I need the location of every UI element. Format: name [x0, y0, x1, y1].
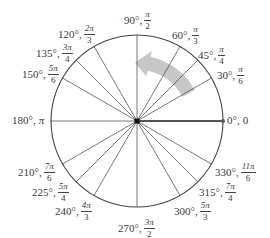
- angle-label-240: 240°,4π3: [55, 201, 92, 222]
- radian-fraction: π4: [218, 45, 225, 66]
- degree-text: 225°,: [32, 187, 56, 198]
- spoke-300: [137, 121, 180, 195]
- radian-fraction: 4π3: [81, 201, 92, 222]
- angle-label-210: 210°,7π6: [18, 162, 55, 183]
- radian-fraction: 3π2: [144, 218, 155, 238]
- radian-fraction: 7π6: [44, 162, 55, 183]
- angle-label-90: 90°,π2: [124, 10, 151, 31]
- angle-label-300: 300°,5π3: [174, 201, 211, 222]
- radian-fraction: 5π4: [58, 182, 69, 203]
- radian-fraction: 5π3: [200, 201, 211, 222]
- spoke-120: [94, 47, 137, 121]
- angle-label-225: 225°,5π4: [32, 182, 69, 203]
- degree-text: 210°,: [18, 167, 42, 178]
- radian-fraction: 3π4: [62, 43, 73, 64]
- degree-text: 315°,: [199, 187, 223, 198]
- degree-text: 60°,: [172, 30, 190, 41]
- spoke-135: [76, 60, 137, 121]
- spoke-210: [63, 121, 137, 164]
- degree-text: 180°,: [12, 115, 36, 126]
- angle-label-0: 0°,0: [227, 115, 248, 126]
- degree-text: 330°,: [215, 167, 239, 178]
- origin-point: [135, 119, 140, 124]
- angle-label-270: 270°,3π2: [118, 218, 155, 238]
- radian-fraction: π2: [144, 10, 151, 31]
- angle-label-180: 180°,π: [12, 115, 44, 126]
- angle-label-150: 150°,5π6: [22, 64, 59, 85]
- degree-text: 150°,: [22, 69, 46, 80]
- radian-fraction: π6: [237, 65, 244, 86]
- rotation-arrow-icon: [135, 51, 195, 97]
- radian-fraction: 5π6: [48, 64, 59, 85]
- angle-label-315: 315°,7π4: [199, 182, 236, 203]
- radian-fraction: 11π6: [241, 162, 256, 183]
- angle-label-60: 60°,π3: [172, 25, 199, 46]
- degree-text: 30°,: [217, 70, 235, 81]
- degree-text: 45°,: [198, 50, 216, 61]
- spoke-330: [137, 121, 211, 164]
- spoke-240: [94, 121, 137, 195]
- spoke-225: [76, 121, 137, 182]
- angle-label-135: 135°,3π4: [36, 43, 73, 64]
- angle-label-330: 330°,11π6: [215, 162, 256, 183]
- radian-fraction: 7π4: [225, 182, 236, 203]
- degree-text: 0°,: [227, 115, 240, 126]
- zero-angle-point: [221, 119, 225, 123]
- radian-text: 0: [243, 115, 249, 126]
- angle-label-30: 30°,π6: [217, 65, 244, 86]
- degree-text: 300°,: [174, 206, 198, 217]
- degree-text: 90°,: [124, 15, 142, 26]
- radian-fraction: π3: [192, 25, 199, 46]
- degree-text: 240°,: [55, 206, 79, 217]
- degree-text: 270°,: [118, 223, 142, 234]
- spoke-315: [137, 121, 198, 182]
- radian-text: π: [39, 115, 45, 126]
- radian-fraction: 2π3: [84, 24, 95, 45]
- degree-text: 135°,: [36, 48, 60, 59]
- spoke-150: [63, 78, 137, 121]
- angle-label-45: 45°,π4: [198, 45, 225, 66]
- degree-text: 120°,: [58, 29, 82, 40]
